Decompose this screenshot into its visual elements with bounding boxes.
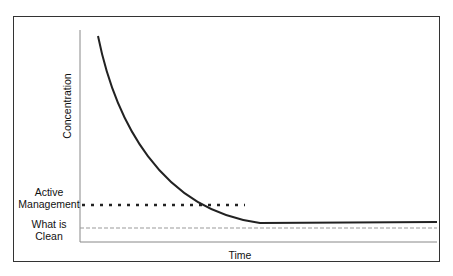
what-is-clean-label: What is Clean [14, 218, 84, 242]
active-management-label-line1: Active [14, 186, 84, 198]
active-management-label: Active Management [14, 186, 84, 210]
what-is-clean-label-line1: What is [14, 218, 84, 230]
y-axis-label: Concentration [61, 56, 73, 156]
x-axis-label: Time [200, 249, 280, 261]
what-is-clean-label-line2: Clean [14, 230, 84, 242]
decay-curve [98, 36, 437, 223]
active-management-label-line2: Management [14, 198, 84, 210]
